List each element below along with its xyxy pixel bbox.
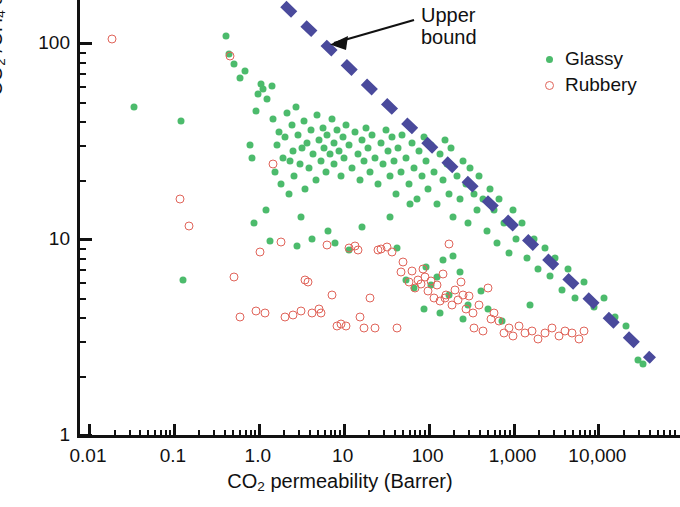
data-point-glassy [590,303,597,310]
data-point-rubbery [495,317,504,326]
data-point-glassy [552,254,559,261]
data-point-glassy [564,266,571,273]
data-point-glassy [283,109,290,116]
y-tick-label: 1 [20,424,70,446]
data-point-glassy [581,279,588,286]
data-point-glassy [374,181,381,188]
data-point-rubbery [508,331,517,340]
data-point-glassy [349,165,356,172]
data-point-glassy [526,302,533,309]
x-tick-label: 10 [332,445,353,467]
x-tick-label: 10,000 [568,445,626,467]
data-point-rubbery [580,326,589,335]
data-point-glassy [428,142,435,149]
data-point-rubbery [328,290,337,299]
legend-open-circle-icon [540,81,558,90]
data-point-glassy [473,207,480,214]
data-point-glassy [475,172,482,179]
data-point-glassy [291,172,298,179]
data-point-rubbery [236,312,245,321]
data-point-rubbery [418,265,427,274]
data-point-glassy [269,115,276,122]
data-point-glassy [395,145,402,152]
data-point-rubbery [317,308,326,317]
data-point-glassy [346,142,353,149]
data-point-glassy [332,240,339,247]
data-point-glassy [501,220,508,227]
data-point-glassy [300,117,307,124]
data-point-glassy [278,181,285,188]
data-point-rubbery [468,308,477,317]
legend-item-rubbery[interactable]: Rubbery [540,72,637,98]
data-point-glassy [535,266,542,273]
data-point-glassy [290,148,297,155]
data-point-rubbery [408,266,417,275]
data-point-glassy [408,139,415,146]
data-point-glassy [359,136,366,143]
data-point-glassy [333,126,340,133]
data-point-glassy [453,172,460,179]
legend: GlassyRubbery [540,46,637,98]
data-point-glassy [249,154,256,161]
data-point-glassy [292,104,299,111]
data-point-glassy [639,361,646,368]
data-point-glassy [230,61,237,68]
data-point-rubbery [457,278,466,287]
data-point-glassy [263,207,270,214]
data-point-glassy [406,201,413,208]
data-point-glassy [285,190,292,197]
data-point-rubbery [185,222,194,231]
data-point-glassy [268,83,275,90]
data-point-glassy [363,124,370,131]
data-point-glassy [380,161,387,168]
legend-marker [545,81,554,90]
data-point-rubbery [458,290,467,299]
y-tick-label: 10 [20,228,70,250]
data-point-glassy [623,322,630,329]
data-point-glassy [382,126,389,133]
data-point-glassy [319,124,326,131]
data-point-rubbery [399,258,408,267]
x-axis-line [77,435,680,438]
data-point-rubbery [433,281,442,290]
data-point-glassy [304,139,311,146]
legend-item-glassy[interactable]: Glassy [540,46,637,72]
data-point-glassy [399,131,406,138]
data-point-glassy [547,272,554,279]
y-axis-line [77,0,80,438]
data-point-rubbery [393,324,402,333]
data-point-glassy [513,236,520,243]
data-point-glassy [377,139,384,146]
data-point-glassy [490,207,497,214]
data-point-glassy [448,145,455,152]
data-point-glassy [264,95,271,102]
data-point-rubbery [303,278,312,287]
data-point-glassy [241,67,248,74]
data-point-rubbery [373,245,382,254]
data-point-rubbery [474,301,483,310]
data-point-glassy [367,168,374,175]
data-point-glassy [252,107,259,114]
data-point-glassy [352,129,359,136]
data-point-glassy [267,237,274,244]
legend-filled-circle-icon [540,56,558,63]
data-point-glassy [339,134,346,141]
data-point-rubbery [277,237,286,246]
data-point-glassy [328,115,335,122]
data-point-glassy [601,295,608,302]
data-point-glassy [439,176,446,183]
data-point-rubbery [229,272,238,281]
data-point-glassy [343,122,350,129]
data-point-rubbery [469,324,478,333]
y-title-text: CO2 /CH4 selectivity [0,0,6,96]
data-point-glassy [296,161,303,168]
data-point-glassy [297,213,304,220]
data-point-rubbery [281,312,290,321]
data-point-rubbery [440,294,449,303]
data-point-glassy [437,309,444,316]
data-point-glassy [335,148,342,155]
data-point-glassy [288,122,295,129]
data-point-glassy [437,151,444,158]
annotation-line-2: bound [421,26,477,48]
data-point-rubbery [296,306,305,315]
